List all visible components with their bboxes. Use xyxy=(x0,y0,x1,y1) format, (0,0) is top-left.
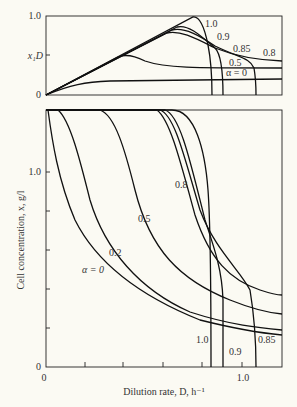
bottom-curve-alpha-0 xyxy=(48,110,282,335)
top-curve-alpha-0 xyxy=(46,79,282,95)
top-annot-0.85: 0.85 xyxy=(233,43,251,54)
x-label-zero: 0 xyxy=(42,372,47,383)
bottom-panel: 1.0 0 0 1.0 Dilution rate, D, h⁻¹ Cell c… xyxy=(15,110,282,397)
y-axis-title: Cell concentration, x, g/l xyxy=(15,190,26,289)
chart-figure: 1.0 x₁D 0 1.0 0.9 0.85 0.8 0.5 α = 0 xyxy=(0,0,297,407)
bottom-annot-0.5: 0.5 xyxy=(138,213,151,224)
top-annot-0.9: 0.9 xyxy=(217,31,230,42)
bottom-curve-alpha-0.85 xyxy=(46,110,256,367)
x-label-one: 1.0 xyxy=(237,372,250,383)
bottom-annot-0.2: 0.2 xyxy=(109,247,122,258)
top-annot-alpha-0: α = 0 xyxy=(226,67,247,78)
top-annot-1.0: 1.0 xyxy=(205,18,218,29)
bottom-annot-0.9: 0.9 xyxy=(229,346,242,357)
top-annot-0.8: 0.8 xyxy=(263,47,276,58)
bottom-annot-alpha-0: α = 0 xyxy=(82,264,104,275)
bottom-y-label-one: 1.0 xyxy=(29,166,42,177)
top-panel-frame xyxy=(46,16,282,95)
bottom-annot-0.85: 0.85 xyxy=(258,334,276,345)
top-panel: 1.0 x₁D 0 1.0 0.9 0.85 0.8 0.5 α = 0 xyxy=(27,10,282,100)
top-curve-alpha-0.9 xyxy=(46,27,223,95)
bottom-curve-alpha-0.9 xyxy=(46,110,223,367)
bottom-annot-1.0: 1.0 xyxy=(196,334,209,345)
top-y-label-x1d: x₁D xyxy=(27,50,44,61)
bottom-y-label-zero: 0 xyxy=(36,361,41,372)
top-y-label-max: 1.0 xyxy=(29,10,42,21)
top-y-label-zero: 0 xyxy=(36,89,41,100)
bottom-panel-frame xyxy=(46,110,282,367)
top-curve-alpha-0.8 xyxy=(46,32,282,95)
bottom-curve-alpha-0.2 xyxy=(46,110,282,330)
x-axis-title: Dilution rate, D, h⁻¹ xyxy=(123,386,204,397)
bottom-annot-0.8: 0.8 xyxy=(175,179,188,190)
